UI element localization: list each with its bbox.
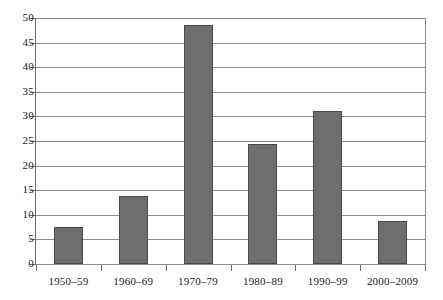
bar[interactable] [119, 196, 148, 264]
y-axis-tick-label: 40 [23, 61, 34, 72]
y-axis-tick-label: 25 [23, 135, 34, 146]
bar[interactable] [184, 25, 213, 264]
x-axis-tick-mark [231, 265, 232, 271]
bar[interactable] [248, 144, 277, 264]
x-axis-tick-mark [36, 265, 37, 271]
y-axis-tick-label: 35 [23, 86, 34, 97]
gridline [36, 215, 425, 216]
y-axis-tick-label: 30 [23, 110, 34, 121]
gridline [36, 67, 425, 68]
x-axis-tick-label: 1980–89 [231, 275, 296, 287]
x-axis-tick-label: 1990–99 [295, 275, 360, 287]
y-axis-tick-label: 10 [23, 209, 34, 220]
plot-area [36, 18, 425, 264]
y-axis-tick-label: 0 [28, 258, 34, 269]
gridline [36, 141, 425, 142]
gridline [36, 190, 425, 191]
y-axis-tick-label: 15 [23, 184, 34, 195]
x-axis-tick-mark [166, 265, 167, 271]
gridline [36, 18, 425, 19]
y-axis-tick-label: 5 [28, 233, 34, 244]
plot-right-border [425, 18, 426, 265]
x-axis-tick-mark [295, 265, 296, 271]
x-axis-tick-label: 2000–2009 [360, 275, 425, 287]
x-axis-tick-label: 1970–79 [166, 275, 231, 287]
bar[interactable] [378, 221, 407, 264]
gridline [36, 92, 425, 93]
x-axis-tick-mark [360, 265, 361, 271]
bar[interactable] [313, 111, 342, 264]
x-axis-tick-mark [425, 265, 426, 271]
x-axis-tick-label: 1960–69 [101, 275, 166, 287]
gridline [36, 166, 425, 167]
gridline [36, 43, 425, 44]
gridline [36, 239, 425, 240]
x-axis-tick-mark [101, 265, 102, 271]
x-axis-tick-label: 1950–59 [36, 275, 101, 287]
gridline [36, 116, 425, 117]
y-axis-tick-label: 50 [23, 12, 34, 23]
bar[interactable] [54, 227, 83, 264]
y-axis-tick-label: 20 [23, 160, 34, 171]
y-axis-tick-label: 45 [23, 37, 34, 48]
bar-chart: 05101520253035404550 1950–591960–691970–… [0, 0, 443, 300]
